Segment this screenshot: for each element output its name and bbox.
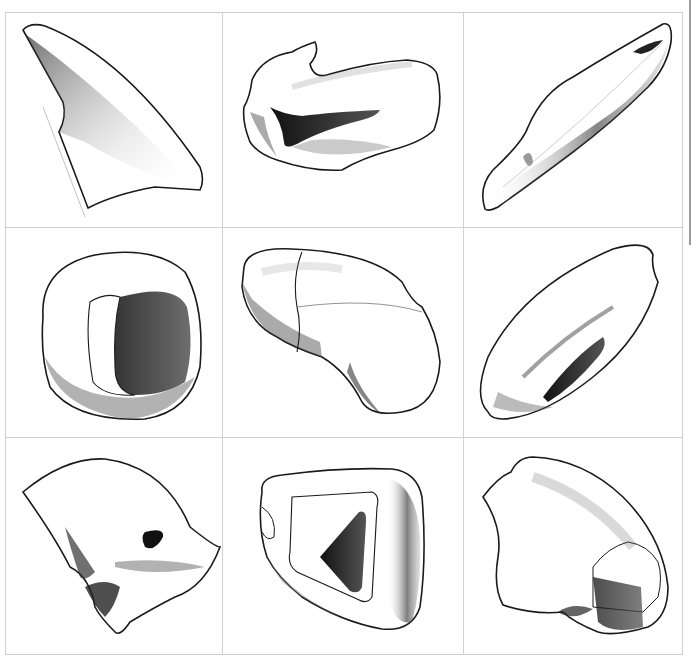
folded-form-sketch [5,437,222,655]
sketch-cell: Curved fin / shark-fin shaped wedge [5,12,222,227]
lumpy-block-sketch [222,12,463,227]
seed-sketch [463,227,683,437]
fin-sketch [5,12,222,227]
ring-sketch [5,227,222,437]
sketch-cell: Domed shell shape with cut facet [463,437,683,655]
torpedo-sketch [463,12,683,227]
sketch-cell: Lumpy block with dark triangular recess [222,12,463,227]
sketch-cell: Kidney-shaped pebble with seam line [222,227,463,437]
sketch-cell: Elongated diagonal torpedo form [463,12,683,227]
sketch-cell: Folded fabric-like form with tube hole [5,437,222,655]
aperture-block-sketch [222,437,463,655]
kidney-pebble-sketch [222,227,463,437]
sketch-cell: Rounded ring with oval opening [5,227,222,437]
sketch-cell: Rounded block with triangular aperture [222,437,463,655]
domed-shell-sketch [463,437,683,655]
sketch-cell: Elliptical seed form with slot [463,227,683,437]
